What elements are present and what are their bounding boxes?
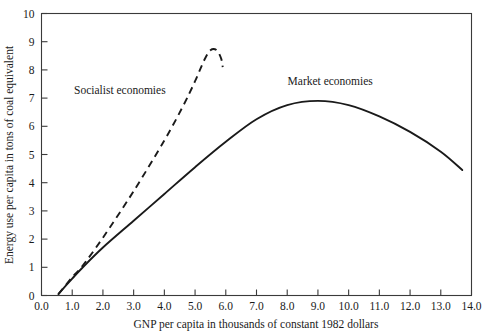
y-tick-label: 10 bbox=[23, 8, 35, 20]
y-axis-tick-labels: 012345678910 bbox=[23, 8, 35, 302]
chart-figure: 0.01.02.03.04.05.06.07.08.09.010.011.012… bbox=[0, 0, 483, 335]
x-tick-label: 10.0 bbox=[339, 300, 359, 312]
y-tick-label: 1 bbox=[29, 261, 35, 273]
series-annotation-group: Socialist economiesMarket economies bbox=[74, 75, 373, 95]
x-axis-title: GNP per capita in thousands of constant … bbox=[134, 318, 379, 331]
y-tick-label: 3 bbox=[29, 205, 35, 217]
y-tick-label: 6 bbox=[29, 120, 35, 132]
x-tick-label: 0.0 bbox=[34, 300, 49, 312]
y-tick-label: 5 bbox=[29, 149, 35, 161]
y-tick-label: 7 bbox=[29, 92, 35, 104]
y-axis-tick-marks bbox=[42, 14, 48, 296]
y-tick-label: 4 bbox=[29, 177, 35, 189]
x-axis-tick-marks bbox=[42, 290, 472, 296]
x-tick-label: 2.0 bbox=[96, 300, 111, 312]
y-tick-label: 0 bbox=[29, 290, 35, 302]
y-axis-title: Energy use per capita in tons of coal eq… bbox=[3, 45, 16, 264]
x-tick-label: 5.0 bbox=[188, 300, 203, 312]
x-tick-label: 9.0 bbox=[311, 300, 326, 312]
y-tick-label: 2 bbox=[29, 233, 35, 245]
x-tick-label: 3.0 bbox=[126, 300, 141, 312]
y-tick-label: 8 bbox=[29, 64, 35, 76]
x-tick-label: 12.0 bbox=[400, 300, 420, 312]
x-tick-label: 1.0 bbox=[65, 300, 80, 312]
x-tick-label: 7.0 bbox=[249, 300, 264, 312]
series-annotation-market-economies: Market economies bbox=[288, 75, 374, 87]
y-tick-label: 9 bbox=[29, 36, 35, 48]
x-tick-label: 13.0 bbox=[431, 300, 451, 312]
x-axis-tick-labels: 0.01.02.03.04.05.06.07.08.09.010.011.012… bbox=[34, 300, 482, 312]
plot-frame bbox=[42, 14, 472, 296]
x-tick-label: 11.0 bbox=[370, 300, 390, 312]
x-tick-label: 6.0 bbox=[219, 300, 234, 312]
x-tick-label: 8.0 bbox=[280, 300, 295, 312]
chart-canvas: 0.01.02.03.04.05.06.07.08.09.010.011.012… bbox=[0, 0, 483, 335]
x-tick-label: 14.0 bbox=[461, 300, 481, 312]
series-curve-market-economies bbox=[58, 101, 462, 294]
x-tick-label: 4.0 bbox=[157, 300, 172, 312]
series-annotation-socialist-economies: Socialist economies bbox=[74, 84, 166, 96]
